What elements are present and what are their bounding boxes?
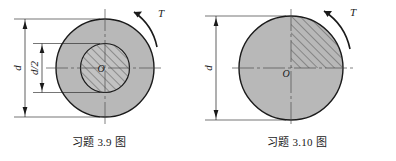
figure-3-10-drawing: d O T: [198, 0, 396, 133]
figure-sheet: d d/2 O T 习题 3.9 图: [0, 0, 396, 161]
figure-3-9: d d/2 O T 习题 3.9 图: [0, 0, 198, 161]
dimension-arrow-bottom: [214, 110, 219, 118]
dimension-label: d: [202, 65, 214, 71]
dimension-arrow-inner-top: [40, 46, 45, 54]
dimension-arrow-outer-bottom: [23, 107, 28, 115]
figure-3-10-caption: 习题 3.10 图: [198, 133, 396, 149]
dimension-arrow-outer-top: [23, 21, 28, 29]
center-label: O: [97, 63, 104, 74]
dimension-label-inner: d/2: [28, 60, 40, 75]
figure-3-9-drawing: d d/2 O T: [0, 0, 198, 133]
figure-3-9-caption: 习题 3.9 图: [0, 133, 198, 149]
dimension-arrow-inner-bottom: [40, 83, 45, 91]
dimension-arrow-top: [214, 18, 219, 26]
torque-label: T: [350, 6, 357, 18]
torque-label: T: [158, 7, 165, 19]
center-label: O: [282, 68, 289, 79]
dimension-label-outer: d: [11, 65, 23, 71]
figure-3-10: d O T 习题 3.10 图: [198, 0, 396, 161]
